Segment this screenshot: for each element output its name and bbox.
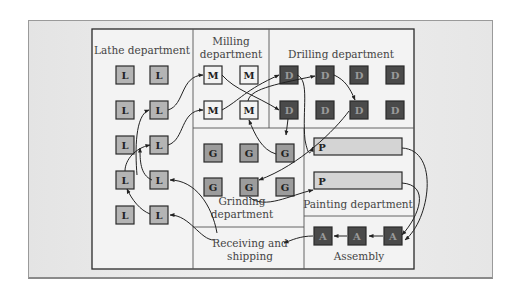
grinding-machine-label: G — [209, 148, 218, 159]
drilling-machine-label: D — [391, 70, 400, 81]
lathe-machine-label: L — [121, 175, 128, 186]
drilling-machine-label: D — [391, 105, 400, 116]
milling-department-label-line1: Milling — [212, 35, 250, 47]
drilling-machine-label: D — [285, 105, 294, 116]
assembly-machine-label: A — [352, 231, 361, 242]
lathe-machine-label: L — [155, 70, 162, 81]
drilling-machine-label: D — [321, 70, 330, 81]
drilling-department-label: Drilling department — [288, 48, 395, 60]
lathe-machine-label: L — [155, 140, 162, 151]
milling-machine-label: M — [207, 105, 218, 116]
drilling-machine-label: D — [355, 70, 364, 81]
grinding-machine-label: G — [281, 148, 290, 159]
painting-line — [314, 172, 402, 189]
painting-line — [314, 138, 402, 155]
grinding-machine-label: G — [281, 182, 290, 193]
grinding-department-label-line2: department — [211, 208, 274, 220]
milling-department-label-line2: department — [200, 48, 263, 60]
grinding-machine-label: G — [245, 182, 254, 193]
painting-department-label: Painting department — [303, 198, 413, 210]
lathe-machine-label: L — [155, 210, 162, 221]
drilling-machine-label: D — [285, 70, 294, 81]
painting-line-label: P — [318, 176, 326, 187]
grinding-machine-label: G — [209, 182, 218, 193]
receiving-shipping-label-line2: shipping — [227, 250, 273, 262]
process-layout-diagram: Lathe department Milling department Dril… — [0, 0, 516, 295]
painting-line-label: P — [318, 142, 326, 153]
milling-machine-label: M — [243, 70, 254, 81]
drilling-machine-label: D — [355, 105, 364, 116]
lathe-machine-label: L — [155, 105, 162, 116]
milling-machine-label: M — [207, 70, 218, 81]
drilling-machine-label: D — [321, 105, 330, 116]
lathe-machine-label: L — [121, 105, 128, 116]
lathe-machine-label: L — [121, 140, 128, 151]
milling-machine-label: M — [243, 105, 254, 116]
assembly-label: Assembly — [333, 250, 385, 262]
receiving-shipping-label-line1: Receiving and — [212, 237, 288, 249]
grinding-machine-label: G — [245, 148, 254, 159]
lathe-department-label: Lathe department — [94, 44, 191, 56]
assembly-machine-label: A — [318, 231, 327, 242]
lathe-machine-label: L — [121, 70, 128, 81]
lathe-machine-label: L — [121, 210, 128, 221]
assembly-machine-label: A — [388, 231, 397, 242]
lathe-machine-label: L — [155, 175, 162, 186]
grinding-department-label-line1: Grinding — [218, 195, 265, 207]
